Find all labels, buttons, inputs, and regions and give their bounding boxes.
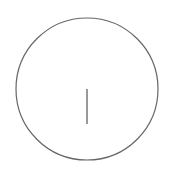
diagram-canvas: [0, 0, 171, 170]
